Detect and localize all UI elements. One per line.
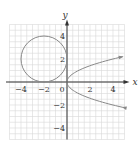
x-axis-label: x [133,77,138,87]
x-tick-label: −4 [15,85,27,94]
graph: −4−202442−2−4xy [0,0,139,154]
x-tick-label: −2 [38,85,50,94]
curves [21,36,127,110]
y-tick-label: −4 [53,124,65,133]
x-axis-arrow-icon [124,80,130,84]
x-tick-label: 4 [110,85,115,94]
y-tick-label: 2 [60,55,65,64]
y-tick-label: −2 [53,101,65,110]
x-tick-label: 0 [59,85,64,94]
y-axis-arrow-icon [65,20,69,26]
y-tick-label: 4 [60,32,65,41]
y-axis-label: y [61,10,68,20]
x-tick-label: 2 [87,85,92,94]
